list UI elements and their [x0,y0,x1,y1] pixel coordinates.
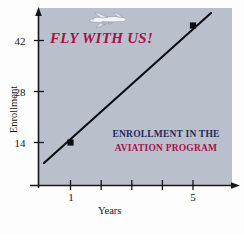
x-axis-title: Years [98,205,121,216]
caption-block: ENROLLMENT IN THE AVIATION PROGRAM [100,127,232,155]
enrollment-line-chart-figure: 42 28 14 1 5 Enrollment Years FLY WITH U… [0,0,244,234]
data-point-marker [190,22,196,28]
x-axis [30,182,240,189]
caption-line-1: ENROLLMENT IN THE [100,127,232,141]
y-axis [35,7,42,188]
airplane-icon [86,12,130,30]
y-axis-title: Enrollment [8,75,19,145]
x-tick-label-1: 1 [61,192,81,203]
caption-line-2: AVIATION PROGRAM [100,141,232,155]
data-point-marker [67,139,73,145]
y-tick-label-42: 42 [10,36,30,47]
slogan-text: FLY WITH US! [50,30,153,47]
x-tick-label-5: 5 [183,192,203,203]
